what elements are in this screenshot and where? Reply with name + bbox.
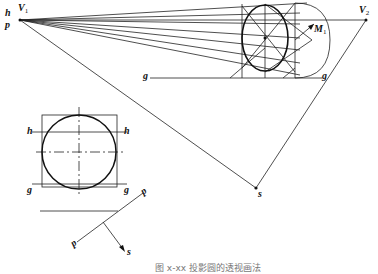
label-p-top: p	[5, 20, 10, 30]
label-g-line: g	[143, 71, 148, 81]
label-v2: V2	[359, 5, 369, 17]
s-direction-line	[103, 222, 123, 249]
label-m1: M1	[314, 24, 326, 36]
label-h-top: h	[5, 8, 11, 18]
label-h-left: h	[27, 126, 33, 136]
label-g-right: g	[322, 71, 327, 81]
p-line	[77, 193, 143, 242]
label-s-arrow: s	[127, 247, 131, 257]
label-g-right2: g	[124, 185, 129, 195]
label-s-point: s	[258, 189, 262, 199]
label-h-right: h	[124, 126, 130, 136]
measuring-arc	[295, 3, 330, 78]
v2-s-line	[256, 20, 366, 188]
label-v1: V1	[18, 3, 28, 15]
figure-caption: 图 x-xx 投影圆的透视画法	[155, 261, 261, 274]
label-g-left: g	[27, 185, 32, 195]
s-arrowhead	[119, 245, 125, 252]
v1-s-line	[20, 20, 256, 188]
